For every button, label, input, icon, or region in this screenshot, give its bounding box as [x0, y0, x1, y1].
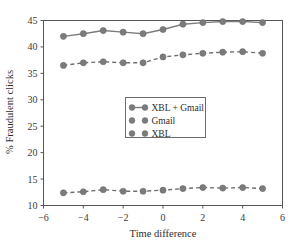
data-point-marker: [200, 184, 206, 190]
data-point-marker: [100, 187, 106, 193]
y-tick-label: 30: [28, 94, 38, 105]
y-tick-label: 15: [28, 174, 38, 185]
data-point-marker: [120, 29, 126, 35]
legend-marker-sample: [129, 131, 135, 137]
data-point-marker: [200, 20, 206, 26]
x-axis-ticks: −6−4−20246: [38, 206, 285, 223]
series-1: [60, 18, 265, 39]
y-tick-label: 20: [28, 147, 38, 158]
data-point-marker: [240, 18, 246, 24]
chart-legend: XBL + GmailGmailXBL: [126, 98, 206, 139]
y-axis-title: % Fraudulent clicks: [4, 70, 15, 154]
x-tick-label: −4: [78, 212, 89, 223]
data-point-marker: [60, 33, 66, 39]
data-point-marker: [220, 49, 226, 55]
y-axis-ticks: 1015202530354045: [28, 15, 44, 211]
data-point-marker: [120, 60, 126, 66]
y-tick-label: 45: [28, 15, 38, 26]
data-point-marker: [160, 187, 166, 193]
x-tick-label: 4: [240, 212, 245, 223]
legend-marker-sample: [142, 105, 148, 111]
data-point-marker: [180, 21, 186, 27]
x-tick-label: 0: [161, 212, 166, 223]
y-tick-label: 40: [28, 41, 38, 52]
legend-marker-sample: [129, 118, 135, 124]
y-tick-label: 10: [28, 200, 38, 211]
series-3: [60, 184, 265, 195]
data-point-marker: [80, 60, 86, 66]
data-point-marker: [200, 50, 206, 56]
legend-label: XBL + Gmail: [152, 103, 205, 113]
x-tick-label: −6: [38, 212, 49, 223]
x-tick-label: 6: [280, 212, 285, 223]
legend-marker-sample: [129, 105, 135, 111]
data-point-marker: [120, 188, 126, 194]
data-point-marker: [140, 188, 146, 194]
x-axis-title: Time difference: [130, 228, 197, 239]
y-tick-label: 35: [28, 68, 38, 79]
data-point-marker: [220, 185, 226, 191]
data-point-marker: [100, 59, 106, 65]
y-tick-label: 25: [28, 121, 38, 132]
legend-marker-sample: [142, 131, 148, 137]
data-point-marker: [100, 27, 106, 33]
data-point-marker: [60, 62, 66, 68]
data-point-marker: [80, 31, 86, 37]
data-point-marker: [140, 31, 146, 37]
legend-marker-sample: [142, 118, 148, 124]
data-point-marker: [259, 20, 265, 26]
legend-label: XBL: [152, 129, 171, 139]
data-point-marker: [160, 54, 166, 60]
data-point-marker: [240, 49, 246, 55]
data-point-marker: [259, 185, 265, 191]
data-point-marker: [259, 50, 265, 56]
data-point-marker: [240, 184, 246, 190]
legend-label: Gmail: [152, 116, 176, 126]
x-tick-label: −2: [118, 212, 129, 223]
data-point-marker: [140, 60, 146, 66]
data-point-marker: [60, 190, 66, 196]
data-point-marker: [160, 26, 166, 32]
series-2: [60, 49, 265, 69]
data-point-marker: [180, 52, 186, 58]
fraudulent-clicks-line-chart: 1015202530354045 −6−4−20246 XBL + GmailG…: [0, 0, 301, 243]
data-point-marker: [220, 18, 226, 24]
data-point-marker: [80, 189, 86, 195]
data-point-marker: [180, 185, 186, 191]
chart-figure: 1015202530354045 −6−4−20246 XBL + GmailG…: [0, 0, 301, 243]
x-tick-label: 2: [200, 212, 205, 223]
